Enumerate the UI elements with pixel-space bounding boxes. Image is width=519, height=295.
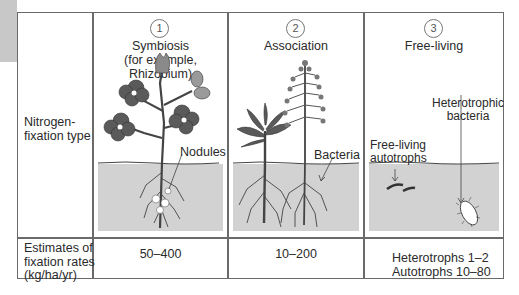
- rate-heterotrophs: Heterotrophs 1–2: [392, 251, 491, 265]
- row-header-rates: Estimates of fixation rates (kg/ha/yr): [24, 242, 95, 283]
- row-header-type-line2: fixation type: [24, 129, 91, 143]
- free-living-illustration: [365, 13, 503, 237]
- rate-symbiosis: 50–400: [94, 247, 227, 261]
- row-header-rates-line1: Estimates of: [24, 242, 95, 256]
- callout-autotrophs-line2: autotrophs: [370, 152, 427, 165]
- callout-heterotrophic-line2: bacteria: [428, 110, 508, 123]
- rate-free-living: Heterotrophs 1–2 Autotrophs 10–80: [392, 251, 491, 279]
- row-header-rates-line3: (kg/ha/yr): [24, 269, 95, 283]
- row-header-type: Nitrogen- fixation type: [24, 115, 91, 143]
- callout-nodules: Nodules: [180, 145, 226, 159]
- callout-free-living-autotrophs: Free-living autotrophs: [370, 139, 427, 165]
- row-divider: [18, 237, 503, 239]
- callout-heterotrophic-bacteria: Heterotrophic bacteria: [428, 97, 508, 123]
- nitrogen-fixation-table: Nitrogen- fixation type Estimates of fix…: [17, 12, 504, 279]
- row-header-rates-line2: fixation rates: [24, 256, 95, 270]
- callout-bacteria: Bacteria: [314, 148, 360, 162]
- row-header-type-line1: Nitrogen-: [24, 115, 91, 129]
- symbiosis-plant-illustration: [94, 13, 227, 237]
- rate-association: 10–200: [229, 247, 363, 261]
- side-tab: [0, 0, 17, 62]
- association-plants-illustration: [229, 13, 363, 237]
- rate-autotrophs: Autotrophs 10–80: [392, 265, 491, 279]
